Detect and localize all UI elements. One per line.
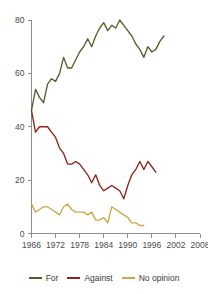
series-line-against [32,111,156,199]
legend-item-no-opinion[interactable]: No opinion [122,274,180,283]
legend-swatch-icon [29,277,42,279]
plot-area: 020406080 196619721978198419901996200220… [0,0,208,258]
x-tick-label: 2008 [191,240,208,250]
y-tick-label: 40 [15,122,25,132]
y-axis: 020406080 [15,15,31,239]
x-tick-label: 2002 [166,240,185,250]
y-tick-label: 20 [15,175,25,185]
x-tick-label: 1996 [142,240,161,250]
chart-legend: ForAgainstNo opinion [0,258,208,294]
x-tick-label: 1966 [22,240,41,250]
x-tick-group: 19661972197819841990199620022008 [22,234,208,250]
series-group [32,20,164,225]
legend-item-for[interactable]: For [29,274,59,283]
x-tick-label: 1984 [94,240,113,250]
line-chart: 020406080 196619721978198419901996200220… [0,0,208,294]
legend-item-against[interactable]: Against [67,274,112,283]
legend-swatch-icon [67,277,80,279]
y-tick-label: 60 [15,68,25,78]
legend-swatch-icon [122,277,135,279]
x-tick-label: 1990 [118,240,137,250]
x-tick-label: 1972 [46,240,65,250]
legend-label: For [46,274,59,283]
series-line-no-opinion [32,204,144,225]
x-tick-label: 1978 [70,240,89,250]
y-tick-group: 020406080 [15,15,31,239]
legend-label: No opinion [139,274,180,283]
y-tick-label: 80 [15,15,25,25]
y-tick-label: 0 [20,229,25,239]
series-line-for [32,20,164,111]
legend-label: Against [84,274,112,283]
x-axis: 19661972197819841990199620022008 [22,234,208,250]
